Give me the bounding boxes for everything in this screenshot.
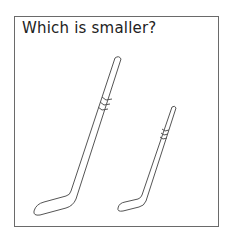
hockey-sticks-illustration (0, 0, 232, 243)
small-hockey-stick-icon[interactable] (118, 106, 176, 211)
large-hockey-stick-icon[interactable] (34, 57, 121, 215)
